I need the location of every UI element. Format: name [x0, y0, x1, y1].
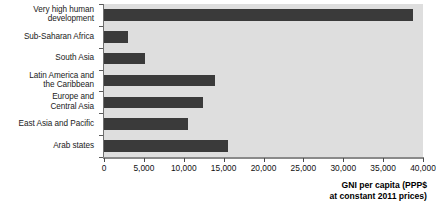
- y-tick: [99, 91, 103, 92]
- y-tick: [99, 26, 103, 27]
- x-tick: [224, 158, 225, 162]
- bar: [104, 140, 228, 152]
- category-label-line: East Asia and Pacific: [0, 119, 94, 128]
- x-tick-label: 15,000: [211, 163, 237, 173]
- bar: [104, 118, 188, 130]
- bar: [104, 75, 215, 87]
- category-label: East Asia and Pacific: [0, 119, 94, 128]
- category-label: South Asia: [0, 53, 94, 62]
- x-tick: [343, 158, 344, 162]
- x-tick-label: 25,000: [291, 163, 317, 173]
- x-tick-label: 40,000: [410, 163, 436, 173]
- category-label-line: Very high human: [0, 5, 94, 14]
- category-label-line: Latin America and: [0, 71, 94, 80]
- x-tick-label: 30,000: [330, 163, 356, 173]
- x-tick: [264, 158, 265, 162]
- category-label-line: Central Asia: [0, 102, 94, 111]
- x-axis-title: GNI per capita (PPP$ at constant 2011 pr…: [207, 180, 427, 201]
- x-tick: [423, 158, 424, 162]
- x-tick-label: 5,000: [133, 163, 154, 173]
- bar: [104, 9, 413, 21]
- x-axis-title-line-2: at constant 2011 prices): [207, 191, 427, 202]
- category-label-line: South Asia: [0, 53, 94, 62]
- category-label-line: Europe and: [0, 92, 94, 101]
- y-tick: [99, 113, 103, 114]
- x-tick: [104, 158, 105, 162]
- bar: [104, 31, 128, 43]
- x-tick: [144, 158, 145, 162]
- x-axis-title-line-1: GNI per capita (PPP$: [207, 180, 427, 191]
- y-tick: [99, 70, 103, 71]
- category-label-line: Sub-Saharan Africa: [0, 32, 94, 41]
- bar: [104, 97, 203, 109]
- y-tick: [99, 135, 103, 136]
- x-tick-label: 10,000: [171, 163, 197, 173]
- x-tick-label: 0: [102, 163, 107, 173]
- x-tick-label: 35,000: [370, 163, 396, 173]
- category-label: Very high humandevelopment: [0, 5, 94, 24]
- y-tick: [99, 4, 103, 5]
- category-label: Arab states: [0, 141, 94, 150]
- category-label: Sub-Saharan Africa: [0, 32, 94, 41]
- category-label: Europe andCentral Asia: [0, 92, 94, 111]
- category-axis-labels: Very high humandevelopmentSub-Saharan Af…: [0, 4, 97, 157]
- category-label-line: Arab states: [0, 141, 94, 150]
- category-label-line: development: [0, 14, 94, 23]
- bar: [104, 53, 145, 65]
- y-tick: [99, 48, 103, 49]
- x-tick-label: 20,000: [251, 163, 277, 173]
- x-tick: [303, 158, 304, 162]
- category-label-line: the Caribbean: [0, 80, 94, 89]
- y-tick: [99, 157, 103, 158]
- x-tick: [383, 158, 384, 162]
- category-label: Latin America andthe Caribbean: [0, 71, 94, 90]
- x-tick: [184, 158, 185, 162]
